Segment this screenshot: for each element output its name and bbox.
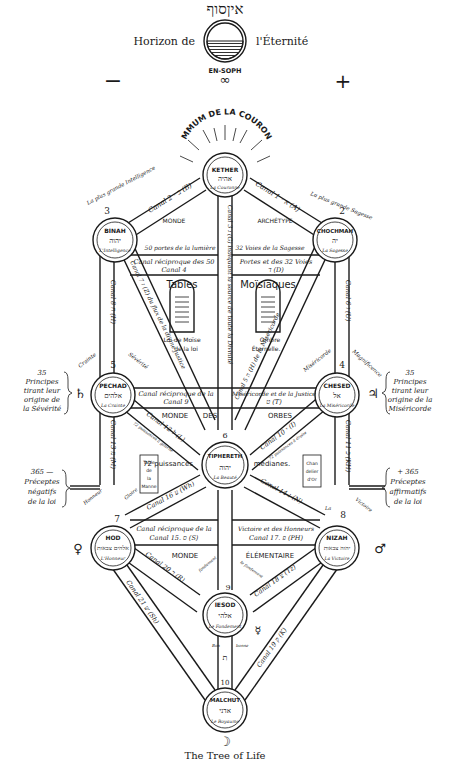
svg-text:7: 7 xyxy=(114,514,120,524)
svg-text:L'Intelligence: L'Intelligence xyxy=(98,248,131,253)
svg-text:יהוה צבאות: יהוה צבאות xyxy=(324,544,351,551)
svg-text:Table: Table xyxy=(142,460,155,465)
svg-text:HOD: HOD xyxy=(105,534,120,541)
svg-text:Miséricorde et de la Justice: Miséricorde et de la Justice xyxy=(231,390,316,398)
tree-of-life-diagram: איןסוף Horizon de l'Éternité EN-SOPH ∞ −… xyxy=(0,0,449,762)
svg-text:ד (D): ד (D) xyxy=(268,266,284,274)
tables-label: Tables xyxy=(165,279,197,290)
svg-text:KETHER: KETHER xyxy=(212,166,239,173)
svg-text:NIZAH: NIZAH xyxy=(326,534,347,541)
infinity-icon: ∞ xyxy=(220,72,231,87)
svg-text:Honneur: Honneur xyxy=(81,487,104,506)
svg-text:tirant leur: tirant leur xyxy=(24,387,61,395)
canal-14-label: Canal 14 נ (N) xyxy=(259,477,304,506)
svg-text:La Victoire: La Victoire xyxy=(323,556,349,561)
svg-text:Victoire: Victoire xyxy=(354,496,373,513)
svg-text:Chan: Chan xyxy=(306,461,318,466)
canal-3-label: Canal 3 ג (G) indiquant la source de tou… xyxy=(226,205,234,365)
svg-text:origine de: origine de xyxy=(24,396,60,404)
canal-10-label: Canal 10 י (I) xyxy=(258,420,298,452)
svg-text:3: 3 xyxy=(104,206,110,216)
svg-text:+ 365: + 365 xyxy=(397,468,419,476)
svg-text:אלהי: אלהי xyxy=(218,612,231,620)
svg-text:יהוה: יהוה xyxy=(109,237,121,245)
canal-8-label: Canal 8 ח (H) xyxy=(109,280,117,324)
canal-11-label: Canal 11 כ (KH) xyxy=(344,420,352,473)
svg-text:de la loi: de la loi xyxy=(28,498,56,506)
side-note-left-top: 35 Principes tirant leur origine de la S… xyxy=(23,369,72,414)
svg-text:CHOCHMAH: CHOCHMAH xyxy=(317,228,354,234)
svg-text:MONDE: MONDE xyxy=(163,217,186,224)
svg-text:יה: יה xyxy=(332,237,338,245)
svg-text:Magnificence: Magnificence xyxy=(350,348,384,380)
svg-text:Canal réciproque de la: Canal réciproque de la xyxy=(138,390,213,398)
svg-text:La: La xyxy=(324,505,331,511)
svg-text:Victoire et des Honneurs: Victoire et des Honneurs xyxy=(238,525,314,532)
moon-icon: ☽ xyxy=(219,734,231,749)
saturn-icon: ♄ xyxy=(74,386,86,401)
svg-text:IESOD: IESOD xyxy=(215,601,236,608)
canal-2-label: Canal 2 · ב (B) xyxy=(147,181,194,214)
svg-text:TIPHERETH: TIPHERETH xyxy=(208,453,243,459)
svg-text:BINAH: BINAH xyxy=(104,227,126,234)
svg-text:4: 4 xyxy=(339,360,345,370)
svg-text:Préceptes: Préceptes xyxy=(23,478,60,486)
svg-text:אל: אל xyxy=(332,392,340,400)
svg-text:DES: DES xyxy=(203,412,218,420)
svg-text:אלהים: אלהים xyxy=(104,392,122,400)
mars-icon: ♂ xyxy=(374,541,386,556)
svg-text:La Sagesse: La Sagesse xyxy=(321,248,348,253)
svg-text:Miséricorde: Miséricorde xyxy=(388,405,432,413)
svg-text:Le Fondement: Le Fondement xyxy=(208,624,242,629)
svg-text:32 Voies de la Sagesse: 32 Voies de la Sagesse xyxy=(236,244,305,252)
svg-text:d'Or: d'Or xyxy=(307,477,317,482)
side-note-left-bottom: 365 — Préceptes négatifs de la loi xyxy=(23,468,70,507)
mercury-icon: ☿ xyxy=(255,624,262,637)
svg-text:tirant leur: tirant leur xyxy=(392,387,429,395)
svg-text:médianes.: médianes. xyxy=(254,460,290,468)
svg-text:10: 10 xyxy=(221,679,230,687)
canal-18-label: Canal 18 צ (Tz) xyxy=(252,563,297,599)
svg-text:La plus grande Intelligence: La plus grande Intelligence xyxy=(85,164,158,207)
plus-sign: + xyxy=(335,69,352,93)
svg-text:ORBES: ORBES xyxy=(268,412,293,420)
svg-text:Crainte: Crainte xyxy=(77,351,98,369)
svg-text:Miséricorde: Miséricorde xyxy=(301,347,333,374)
svg-text:La Crainte: La Crainte xyxy=(100,403,126,408)
svg-text:MONDE: MONDE xyxy=(162,412,189,420)
svg-text:la: la xyxy=(147,476,151,481)
caption: The Tree of Life xyxy=(184,750,265,761)
svg-text:Bon: Bon xyxy=(211,643,220,648)
svg-text:אלהים צבאות: אלהים צבאות xyxy=(97,544,129,551)
svg-text:ט (T): ט (T) xyxy=(266,398,282,406)
svg-text:אהיה: אהיה xyxy=(218,175,232,183)
canal-5-label: Canal 5 ה (H) de la Miséricorde xyxy=(233,311,281,401)
svg-text:le fondement: le fondement xyxy=(239,560,264,580)
svg-text:CHESED: CHESED xyxy=(324,382,351,389)
svg-text:Préceptes: Préceptes xyxy=(389,478,426,486)
svg-text:365 —: 365 — xyxy=(31,468,54,476)
svg-text:35: 35 xyxy=(406,369,415,377)
svg-text:Principes: Principes xyxy=(24,378,59,386)
svg-text:PECHAD: PECHAD xyxy=(99,382,127,389)
svg-text:Manne: Manne xyxy=(141,484,156,489)
svg-text:Canal réciproque de la: Canal réciproque de la xyxy=(136,525,211,533)
svg-text:ARCHÉTYPE: ARCHÉTYPE xyxy=(257,217,292,224)
svg-text:affirmatifs: affirmatifs xyxy=(390,488,427,496)
canal-15-label: Canal 15. ס (S) xyxy=(150,534,199,542)
svg-text:bonne: bonne xyxy=(236,643,249,648)
svg-text:יהוה: יהוה xyxy=(219,464,231,472)
svg-text:8: 8 xyxy=(340,510,346,520)
svg-text:la Sévérité: la Sévérité xyxy=(23,405,61,413)
svg-text:La plus grande Sagesse: La plus grande Sagesse xyxy=(308,190,374,222)
svg-text:50 portes de la lumière: 50 portes de la lumière xyxy=(145,244,216,252)
canal-21-label: Canal 21 ש (Sh) xyxy=(124,579,161,626)
svg-text:ÉLÉMENTAIRE: ÉLÉMENTAIRE xyxy=(246,551,294,560)
canal-13-label: Canal 13 מ (M) xyxy=(109,420,117,470)
minus-sign: − xyxy=(104,68,122,93)
canal-22-label: ת xyxy=(223,653,228,662)
moisiaques-label: Moïsiaques xyxy=(240,279,296,290)
svg-text:Portes et des 32 Voies: Portes et des 32 Voies xyxy=(239,258,313,266)
svg-text:MONDE: MONDE xyxy=(172,552,199,560)
side-note-right-bottom: + 365 Préceptes affirmatifs de la loi xyxy=(382,468,427,507)
